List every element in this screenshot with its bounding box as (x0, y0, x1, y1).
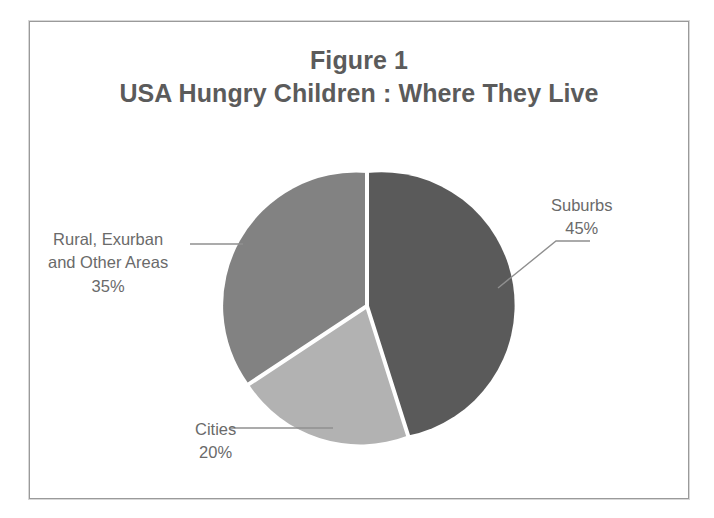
figure-border: Figure 1 USA Hungry Children : Where The… (29, 21, 689, 499)
pie-label-cities-name: Cities (195, 418, 236, 441)
pie-label-suburbs-percent: 45% (551, 217, 612, 240)
pie-label-suburbs: Suburbs 45% (551, 194, 612, 241)
pie-label-rural: Rural, Exurban and Other Areas 35% (48, 228, 168, 298)
pie-label-rural-name-line-1: Rural, Exurban (48, 228, 168, 251)
pie-label-rural-name-line-2: and Other Areas (48, 251, 168, 274)
pie-label-suburbs-name: Suburbs (551, 194, 612, 217)
pie-label-cities-percent: 20% (195, 441, 236, 464)
pie-label-cities: Cities 20% (195, 418, 236, 465)
pie-label-rural-percent: 35% (48, 275, 168, 298)
